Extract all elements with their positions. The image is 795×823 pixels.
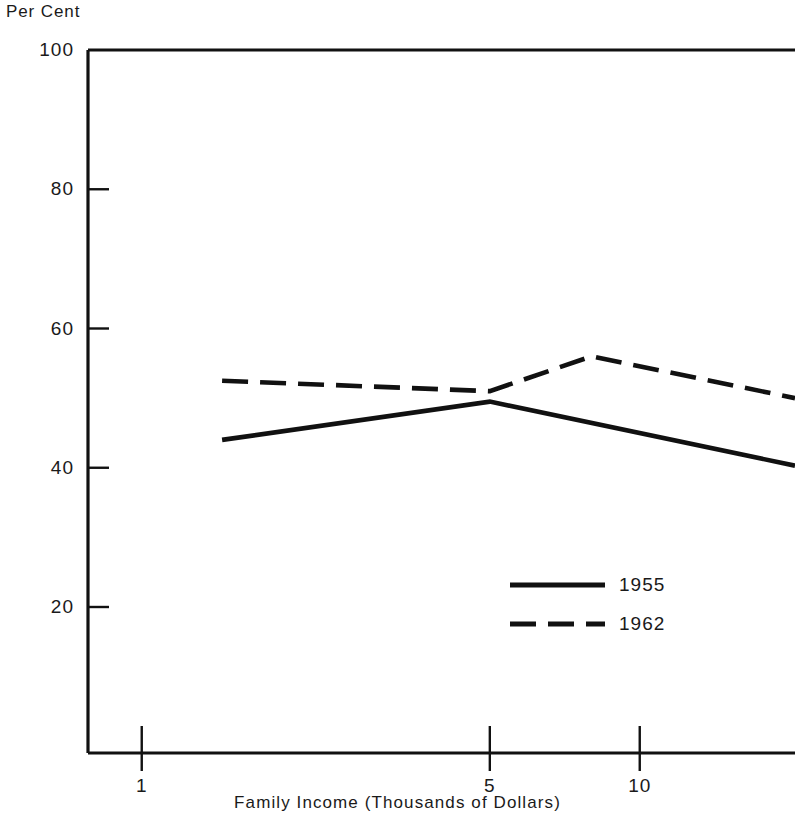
y-tick-label: 60 <box>12 318 74 340</box>
line-chart: Per Cent 10080604020 1510 19551962 Famil… <box>0 0 795 823</box>
x-axis-ticks <box>142 726 640 771</box>
legend-label-1955: 1955 <box>619 574 665 596</box>
series-line-1962 <box>222 356 795 398</box>
y-tick-label: 20 <box>12 596 74 618</box>
x-axis-title: Family Income (Thousands of Dollars) <box>0 793 795 813</box>
axis-frame <box>88 50 795 753</box>
y-tick-label: 100 <box>12 39 74 61</box>
plot-area <box>0 0 795 823</box>
data-series-group <box>222 356 795 465</box>
y-tick-label: 40 <box>12 457 74 479</box>
legend-swatches <box>510 585 605 624</box>
y-tick-label: 80 <box>12 178 74 200</box>
series-line-1955 <box>222 402 795 466</box>
y-axis-ticks <box>88 189 109 607</box>
legend-label-1962: 1962 <box>619 613 665 635</box>
